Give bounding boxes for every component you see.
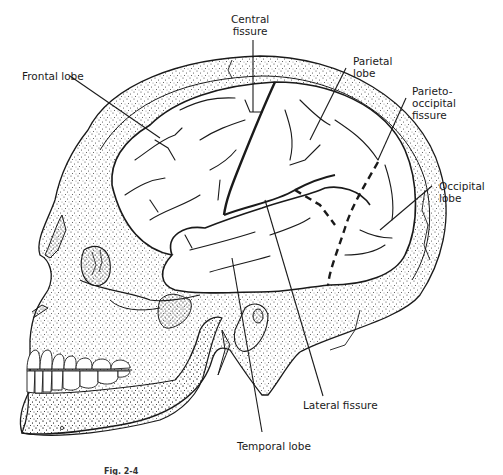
label-parietal-lobe: Parietal lobe (353, 55, 392, 79)
label-central-fissure: Central fissure (231, 13, 269, 37)
label-occipital-lobe: Occipital lobe (439, 180, 485, 204)
label-temporal-lobe: Temporal lobe (237, 440, 311, 452)
label-parieto-occipital-fissure: Parieto- occipital fissure (412, 85, 456, 121)
label-frontal-lobe: Frontal lobe (22, 70, 84, 82)
svg-text:Fig. 2-4: Fig. 2-4 (104, 467, 139, 475)
caption-figure-number: Fig. 2-4 (104, 467, 139, 475)
label-lateral-fissure: Lateral fissure (303, 399, 378, 411)
